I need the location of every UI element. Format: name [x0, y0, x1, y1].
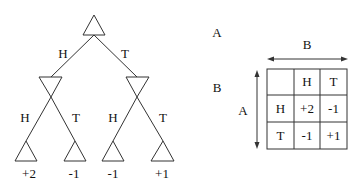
leaf-payoff-1: +2: [22, 167, 36, 180]
leaf-3-triangle: [102, 141, 124, 161]
edge-label-left-H: H: [20, 111, 29, 124]
matrix-col-header-T: T: [320, 69, 347, 95]
b-node-right-triangle: [126, 77, 149, 97]
leaf-payoff-4: +1: [155, 167, 169, 180]
edge-root-T: [94, 35, 137, 77]
matrix-col-header-H: H: [294, 69, 320, 95]
root-node-triangle: [83, 15, 105, 35]
player-label-b: B: [213, 81, 222, 94]
leaf-4-triangle: [151, 141, 174, 161]
edge-label-right-T: T: [159, 111, 167, 124]
matrix-cell-HT: -1: [320, 95, 347, 122]
arrowhead-right-icon: [341, 57, 348, 62]
leaf-payoff-2: -1: [69, 167, 80, 180]
b-node-left-triangle: [39, 77, 62, 97]
leaf-payoff-3: -1: [108, 167, 119, 180]
edge-label-root-H: H: [58, 47, 67, 60]
arrowhead-down-icon: [255, 142, 260, 149]
leaf-1-triangle: [15, 141, 37, 161]
arrowhead-left-icon: [267, 57, 274, 62]
matrix-cell-TT: +1: [320, 122, 347, 149]
edge-label-root-T: T: [121, 47, 129, 60]
player-label-a: A: [212, 26, 221, 39]
matrix-column-player-label: B: [303, 38, 312, 51]
edge-left-H: [26, 97, 51, 141]
matrix-row-header-H: H: [267, 95, 294, 122]
leaf-2-triangle: [64, 141, 86, 161]
edge-label-left-T: T: [72, 111, 80, 124]
matrix-corner-cell: [267, 69, 294, 95]
matrix-row-header-T: T: [267, 122, 294, 149]
edge-label-right-H: H: [108, 111, 117, 124]
matrix-cell-HH: +2: [294, 95, 320, 122]
arrowhead-up-icon: [255, 70, 260, 77]
matrix-cell-TH: -1: [294, 122, 320, 149]
matrix-row-player-label: A: [238, 104, 247, 117]
